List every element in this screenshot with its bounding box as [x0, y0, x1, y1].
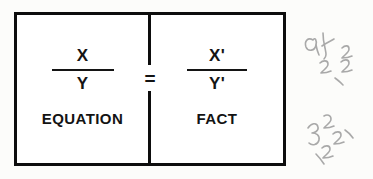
fact-numerator: X' [209, 47, 225, 65]
fact-fraction: X' Y' [187, 47, 247, 93]
fact-denominator: Y' [209, 75, 225, 93]
equation-numerator: X [77, 47, 89, 65]
equation-fraction-bar [52, 69, 114, 71]
equation-fraction: X Y [52, 47, 114, 93]
fact-panel: X' Y' FACT [151, 15, 283, 163]
handwriting-bottom-annotation [300, 108, 366, 168]
equation-denominator: Y [77, 75, 89, 93]
scanned-page: X Y EQUATION X' Y' FACT = [0, 0, 373, 179]
equation-fact-figure: X Y EQUATION X' Y' FACT = [14, 12, 286, 166]
handwriting-top-annotation [300, 26, 366, 88]
equals-sign: = [139, 65, 161, 91]
fact-caption: FACT [197, 110, 238, 127]
equation-panel: X Y EQUATION [17, 15, 148, 163]
equation-caption: EQUATION [42, 110, 123, 127]
fact-fraction-bar [187, 69, 247, 71]
